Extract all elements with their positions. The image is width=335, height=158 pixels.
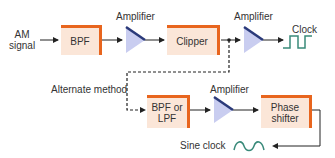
phase-shifter-line-1: Phase bbox=[271, 102, 299, 113]
amplifier-3-label: Amplifier bbox=[210, 84, 249, 95]
am-signal-line-1: AM bbox=[9, 29, 35, 40]
phase-shifter-line-2: shifter bbox=[271, 113, 299, 124]
amplifier-3-icon bbox=[214, 97, 233, 123]
bpf-or-lpf-line-1: BPF or bbox=[151, 102, 182, 113]
sine-wave-icon bbox=[234, 142, 264, 151]
am-signal-label: AM signal bbox=[9, 29, 35, 51]
block-bpf: BPF bbox=[61, 25, 102, 55]
connection-lines bbox=[0, 0, 335, 158]
block-clipper: Clipper bbox=[167, 25, 220, 55]
block-bpf-or-lpf: BPF or LPF bbox=[147, 95, 190, 128]
block-phase-shifter: Phase shifter bbox=[261, 95, 312, 128]
clock-label: Clock bbox=[292, 24, 317, 35]
alternate-method-label: Alternate method bbox=[51, 84, 127, 95]
amplifier-2-icon bbox=[244, 27, 263, 53]
bpf-or-lpf-line-2: LPF bbox=[151, 113, 182, 124]
amplifier-1-icon bbox=[126, 27, 145, 53]
am-signal-line-2: signal bbox=[9, 40, 35, 51]
amplifier-1-label: Amplifier bbox=[116, 11, 155, 22]
block-clipper-label: Clipper bbox=[176, 36, 208, 47]
sine-clock-label: Sine clock bbox=[180, 140, 226, 151]
amplifier-2-label: Amplifier bbox=[234, 11, 273, 22]
block-bpf-label: BPF bbox=[70, 36, 89, 47]
square-wave-icon bbox=[283, 36, 312, 48]
